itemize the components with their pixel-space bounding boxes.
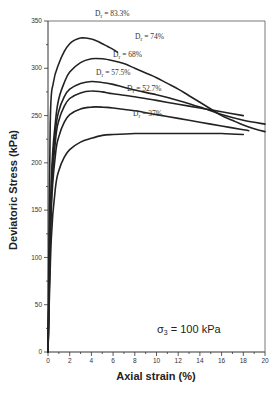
x-tick-label: 6: [111, 357, 115, 364]
x-tick-label: 12: [175, 357, 183, 364]
x-tick-label: 2: [68, 357, 72, 364]
y-tick-label: 150: [31, 206, 42, 213]
x-tick-label: 0: [46, 357, 50, 364]
x-tick-label: 4: [90, 357, 94, 364]
curve-label-5: Dr = 37%: [133, 109, 162, 119]
confining-pressure-annotation: σ3 = 100 kPa: [157, 323, 221, 336]
curve-label-2: Dr = 68%: [113, 50, 142, 60]
y-axis-title: Deviatoric Stress (kPa): [7, 130, 19, 250]
y-tick-label: 200: [31, 159, 42, 166]
y-tick-label: 250: [31, 112, 42, 119]
y-tick-label: 100: [31, 254, 42, 261]
x-tick-label: 10: [153, 357, 161, 364]
curve-series-2: [48, 81, 265, 352]
y-tick-label: 300: [31, 64, 42, 71]
stress-strain-chart: 05010015020025030035002468101214161820 D…: [0, 0, 280, 397]
y-tick-label: 350: [31, 17, 42, 24]
annotation-value: = 100 kPa: [168, 323, 222, 335]
x-axis-title: Axial strain (%): [116, 370, 196, 382]
curve-series-5: [48, 133, 243, 352]
x-tick-label: 18: [240, 357, 248, 364]
y-tick-label: 0: [38, 348, 42, 355]
x-tick-label: 8: [133, 357, 137, 364]
x-tick-label: 14: [196, 357, 204, 364]
x-tick-label: 16: [218, 357, 226, 364]
curve-labels: Dr = 83.3%Dr = 74%Dr = 68%Dr = 57.5%Dr =…: [95, 9, 164, 119]
x-tick-label: 20: [261, 357, 269, 364]
y-tick-label: 50: [35, 301, 43, 308]
curve-series-0: [48, 38, 117, 352]
curve-series-3: [48, 91, 243, 352]
curve-label-0: Dr = 83.3%: [95, 9, 130, 19]
curve-label-4: Dr = 52.7%: [127, 84, 162, 94]
curve-label-3: Dr = 57.5%: [96, 68, 131, 78]
axes: [48, 21, 265, 352]
curve-label-1: Dr = 74%: [135, 32, 164, 42]
curve-series-1: [48, 58, 265, 352]
ticks: 05010015020025030035002468101214161820: [31, 17, 269, 364]
